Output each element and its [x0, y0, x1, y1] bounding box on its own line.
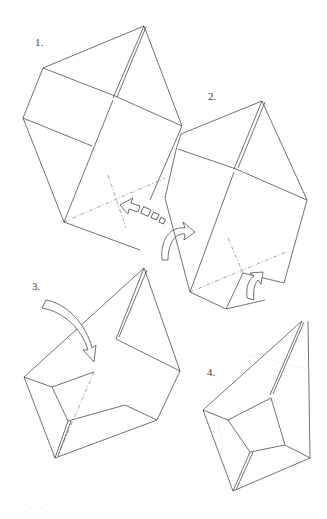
fold-arrow-icon — [120, 198, 140, 214]
curved-arrow-icon — [162, 222, 195, 260]
step-1-arrow-group — [120, 198, 195, 260]
curved-arrow-icon — [42, 300, 96, 362]
step-3-figure — [24, 268, 180, 458]
folding-diagram — [0, 0, 327, 519]
curved-arrow-icon — [247, 272, 263, 300]
caption-text: · · · — [30, 504, 42, 513]
step-4-figure — [203, 321, 310, 491]
step-2-figure — [165, 101, 307, 309]
